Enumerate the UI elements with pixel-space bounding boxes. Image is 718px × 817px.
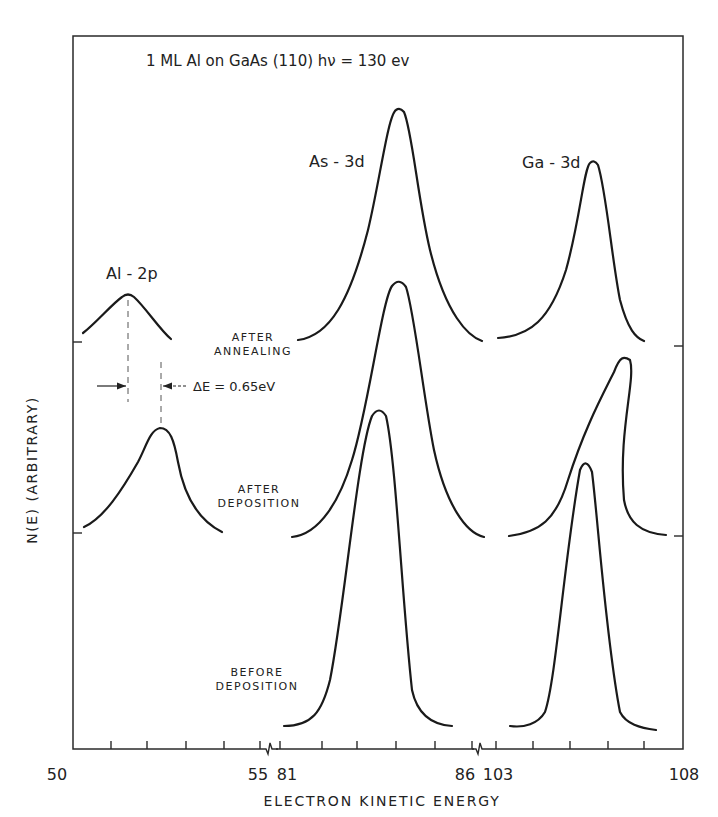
as-3d-after-deposition-curve: [292, 282, 484, 537]
ga-3d-before-deposition-curve: [510, 463, 656, 730]
plot-frame: [73, 36, 683, 749]
ga-3d-after-deposition-curve: [509, 358, 666, 536]
tick-label-55: 55: [248, 765, 268, 784]
after-annealing-label-2: ANNEALING: [214, 345, 292, 358]
before-deposition-label-2: DEPOSITION: [216, 680, 299, 693]
delta-e-label: ΔE = 0.65eV: [193, 379, 275, 394]
after-deposition-label-2: DEPOSITION: [218, 497, 301, 510]
y-axis-label: N(E) (ARBITRARY): [24, 396, 40, 543]
chart-title: 1 ML Al on GaAs (110) hν = 130 ev: [146, 52, 409, 70]
x-axis-label: ELECTRON KINETIC ENERGY: [263, 793, 500, 809]
as-3d-label: As - 3d: [309, 152, 365, 171]
al-2p-after-deposition-curve: [84, 428, 222, 532]
after-deposition-label-1: AFTER: [238, 483, 280, 496]
ga-3d-after-annealing-curve: [498, 161, 644, 341]
as-3d-before-deposition-curve: [284, 411, 452, 727]
tick-label-86: 86: [455, 765, 475, 784]
tick-label-103: 103: [483, 765, 514, 784]
tick-label-81: 81: [277, 765, 297, 784]
xps-spectra-chart: 1 ML Al on GaAs (110) hν = 130 ev Al - 2…: [0, 0, 718, 817]
al-2p-after-annealing-curve: [83, 295, 171, 340]
x-ticks: [111, 741, 644, 749]
ga-3d-label: Ga - 3d: [522, 153, 580, 172]
al-2p-label: Al - 2p: [106, 264, 158, 283]
before-deposition-label-1: BEFORE: [230, 666, 283, 679]
tick-label-50: 50: [47, 765, 67, 784]
as-3d-after-annealing-curve: [298, 109, 482, 341]
after-annealing-label-1: AFTER: [232, 331, 274, 344]
tick-label-108: 108: [669, 765, 700, 784]
